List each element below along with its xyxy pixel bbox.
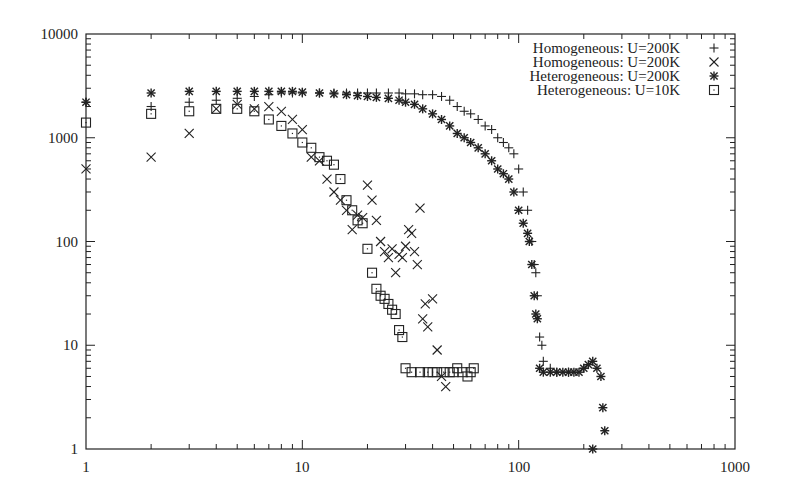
series-cross (82, 100, 451, 391)
y-tick-label: 100 (56, 234, 79, 250)
series-square (82, 104, 479, 381)
legend-marker-cross-icon (710, 58, 719, 67)
y-tick-label: 1 (71, 441, 79, 457)
x-tick-label: 100 (508, 459, 531, 475)
legend-label-heterogeneous-square: Heterogeneous: U=10K (537, 82, 680, 98)
y-tick-label: 10000 (41, 26, 79, 42)
legend-markers (710, 44, 719, 95)
x-tick-label: 10 (295, 459, 310, 475)
series-star (82, 87, 610, 454)
x-tick-label: 1000 (720, 459, 750, 475)
loglog-scatter-chart: 1 10 100 1000 1 10 100 1000 10000 Homoge… (0, 0, 788, 504)
legend-marker-plus-icon (710, 44, 719, 53)
legend: Homogeneous: U=200K Homogeneous: U=200K … (529, 40, 718, 98)
legend-marker-star-icon (710, 72, 719, 81)
x-tick-label: 1 (82, 459, 90, 475)
y-tick-label: 10 (63, 337, 78, 353)
data-points (82, 87, 610, 454)
legend-marker-square-icon (710, 86, 719, 95)
y-tick-label: 1000 (48, 130, 78, 146)
series-plus (82, 88, 589, 376)
